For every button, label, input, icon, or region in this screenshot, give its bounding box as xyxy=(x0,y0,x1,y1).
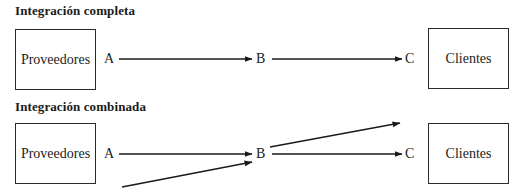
diagram-title-combined: Integración combinada xyxy=(15,100,146,114)
customers-box: Clientes xyxy=(428,28,509,89)
customers-label: Clientes xyxy=(446,146,492,162)
suppliers-label: Proveedores xyxy=(21,52,90,68)
customers-label: Clientes xyxy=(446,51,492,67)
diagram-title-complete: Integración completa xyxy=(15,4,135,18)
node-b: B xyxy=(256,52,265,66)
suppliers-box: Proveedores xyxy=(15,29,96,90)
arrow-b-to-external xyxy=(270,123,400,147)
customers-box: Clientes xyxy=(428,123,509,184)
node-c: C xyxy=(405,52,414,66)
suppliers-box: Proveedores xyxy=(15,123,96,184)
node-c: C xyxy=(405,147,414,161)
suppliers-label: Proveedores xyxy=(21,146,90,162)
node-a: A xyxy=(104,52,114,66)
node-a: A xyxy=(104,147,114,161)
arrow-external-to-b xyxy=(122,162,252,187)
node-b: B xyxy=(256,147,265,161)
